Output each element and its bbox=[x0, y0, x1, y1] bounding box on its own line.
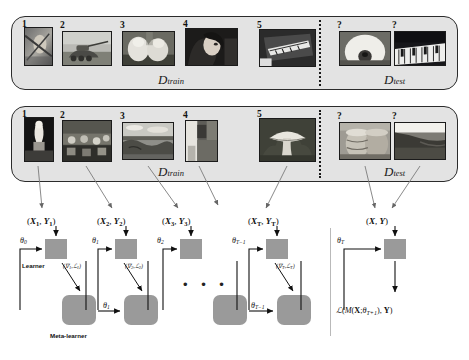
theta-subscript: 0 bbox=[24, 239, 27, 245]
theta-label-T: θT bbox=[337, 236, 344, 245]
theta-label-T-1: θT−1 bbox=[232, 236, 246, 245]
meta-theta-label-T-1: θT−1 bbox=[251, 301, 265, 310]
meta-theta-label-1: θ1 bbox=[103, 301, 110, 310]
grad-loss-label-T: (∇T,ℒT) bbox=[276, 262, 295, 270]
grad-subscript: 2 bbox=[131, 265, 133, 270]
grad-loss-label-2: (∇2,ℒ2) bbox=[125, 262, 143, 270]
loss-subscript: T bbox=[290, 265, 293, 270]
theta-subscript: 1 bbox=[107, 304, 110, 310]
theta-subscript: T bbox=[341, 239, 344, 245]
figure-canvas: 1 2 3 bbox=[0, 0, 469, 360]
final-loss-expression: ℒ(M(X;θT+1), Y) bbox=[336, 305, 392, 316]
theta-label-0: θ0 bbox=[20, 236, 27, 245]
theta-subscript: 1 bbox=[96, 239, 99, 245]
theta-subscript: T−1 bbox=[255, 304, 265, 310]
theta-subscript: 2 bbox=[161, 239, 164, 245]
loss-model: M bbox=[345, 306, 352, 315]
loss-close-paren-2: ) bbox=[390, 306, 393, 315]
ellipsis: • • • bbox=[183, 278, 229, 291]
loss-theta-sub: T+1 bbox=[367, 310, 377, 316]
loss-subscript: 1 bbox=[77, 265, 79, 270]
loss-close-paren: ) bbox=[377, 306, 380, 315]
loss-subscript: 2 bbox=[139, 265, 141, 270]
grad-subscript: T bbox=[282, 265, 285, 270]
grad-subscript: 1 bbox=[69, 265, 71, 270]
dataflow-lines bbox=[0, 0, 469, 360]
learner-label: Learner bbox=[22, 262, 45, 269]
theta-label-1: θ1 bbox=[92, 236, 99, 245]
meta-learner-label: Meta-learner bbox=[50, 332, 87, 339]
grad-loss-label-1: (∇1,ℒ1) bbox=[63, 262, 81, 270]
theta-label-2: θ2 bbox=[157, 236, 164, 245]
theta-subscript: T−1 bbox=[236, 239, 246, 245]
